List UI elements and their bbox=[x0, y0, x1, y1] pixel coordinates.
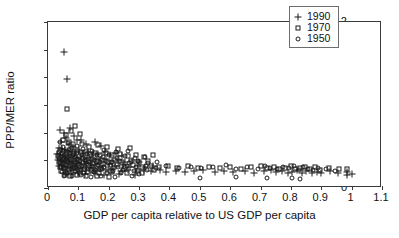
x-tick-mark bbox=[321, 186, 322, 190]
data-point-1950 bbox=[267, 165, 272, 170]
data-point-1970 bbox=[337, 167, 342, 172]
x-tick-label: 0.5 bbox=[191, 191, 206, 203]
x-tick-mark bbox=[169, 186, 170, 190]
circle-marker-icon bbox=[294, 34, 303, 43]
data-point-1950 bbox=[107, 153, 112, 158]
data-point-1950 bbox=[86, 166, 91, 171]
data-point-1950 bbox=[275, 167, 280, 172]
x-tick-mark bbox=[200, 186, 201, 190]
legend: 199019701950 bbox=[289, 6, 339, 48]
x-tick-mark bbox=[261, 186, 262, 190]
data-point-1970 bbox=[73, 123, 78, 128]
x-tick-mark bbox=[382, 186, 383, 190]
square-marker-icon bbox=[294, 23, 303, 32]
data-point-1950 bbox=[79, 173, 84, 178]
data-point-1950 bbox=[114, 149, 119, 154]
data-point-1950 bbox=[154, 159, 159, 164]
data-point-1950 bbox=[316, 165, 321, 170]
x-tick-label: 0.9 bbox=[313, 191, 328, 203]
data-point-1950 bbox=[74, 143, 79, 148]
x-tick-label: 0.1 bbox=[70, 191, 85, 203]
data-point-1970 bbox=[217, 166, 222, 171]
data-point-1950 bbox=[199, 166, 204, 171]
data-point-1950 bbox=[197, 176, 202, 181]
data-point-1950 bbox=[129, 173, 134, 178]
x-tick-label: 0.8 bbox=[282, 191, 297, 203]
x-tick-mark bbox=[352, 186, 353, 190]
data-point-1970 bbox=[96, 143, 101, 148]
data-point-1950 bbox=[58, 139, 63, 144]
x-tick-label: 0.2 bbox=[100, 191, 115, 203]
data-point-1950 bbox=[135, 159, 140, 164]
data-point-1950 bbox=[153, 165, 158, 170]
x-tick-label: 0.4 bbox=[161, 191, 176, 203]
x-tick-mark bbox=[78, 186, 79, 190]
data-point-1970 bbox=[345, 166, 350, 171]
legend-label: 1950 bbox=[307, 32, 330, 44]
data-point-1950 bbox=[102, 147, 107, 152]
data-point-1950 bbox=[123, 154, 128, 159]
data-point-1950 bbox=[332, 168, 337, 173]
data-point-1970 bbox=[68, 129, 73, 134]
x-tick-label: 0 bbox=[44, 191, 50, 203]
x-tick-mark bbox=[48, 186, 49, 190]
data-point-1950 bbox=[144, 168, 149, 173]
data-point-1950 bbox=[290, 175, 295, 180]
data-point-1950 bbox=[66, 141, 71, 146]
data-point-1950 bbox=[310, 168, 315, 173]
data-point-1950 bbox=[105, 171, 110, 176]
x-axis-title: GDP per capita relative to US GDP per ca… bbox=[0, 209, 399, 221]
data-point-1950 bbox=[281, 164, 286, 169]
y-axis-title: PPP/MER ratio bbox=[4, 55, 16, 165]
data-point-1950 bbox=[176, 165, 181, 170]
data-point-1970 bbox=[150, 153, 155, 158]
data-point-1970 bbox=[77, 132, 82, 137]
legend-item-1950: 1950 bbox=[294, 33, 334, 43]
data-point-1950 bbox=[234, 175, 239, 180]
data-point-1950 bbox=[142, 154, 147, 159]
x-tick-label: 1 bbox=[348, 191, 354, 203]
data-point-1950 bbox=[137, 171, 142, 176]
data-point-1950 bbox=[70, 174, 75, 179]
data-point-1970 bbox=[238, 166, 243, 171]
data-point-1950 bbox=[111, 168, 116, 173]
data-point-1950 bbox=[323, 167, 328, 172]
data-point-1990 bbox=[64, 75, 71, 82]
data-point-1950 bbox=[88, 174, 93, 179]
data-point-1950 bbox=[223, 163, 228, 168]
data-point-1970 bbox=[228, 164, 233, 169]
data-point-1950 bbox=[264, 176, 269, 181]
data-point-1950 bbox=[103, 158, 108, 163]
data-point-1970 bbox=[64, 107, 69, 112]
data-point-1950 bbox=[112, 174, 117, 179]
plus-marker-icon bbox=[294, 12, 303, 21]
data-point-1950 bbox=[99, 173, 104, 178]
x-tick-label: 1.1 bbox=[373, 191, 388, 203]
data-point-1990 bbox=[163, 168, 170, 175]
data-point-1950 bbox=[255, 166, 260, 171]
data-point-1950 bbox=[61, 173, 66, 178]
y-tick-mark bbox=[44, 188, 48, 189]
scatter-chart: PPP/MER ratio 024681012 00.10.20.30.40.5… bbox=[0, 0, 399, 238]
data-point-1950 bbox=[94, 152, 99, 157]
data-point-1950 bbox=[118, 159, 123, 164]
data-point-1950 bbox=[298, 176, 303, 181]
data-point-1950 bbox=[234, 166, 239, 171]
x-tick-mark bbox=[139, 186, 140, 190]
data-point-1950 bbox=[164, 164, 169, 169]
x-tick-mark bbox=[109, 186, 110, 190]
legend-item-1970: 1970 bbox=[294, 22, 334, 32]
x-tick-mark bbox=[291, 186, 292, 190]
data-point-1990 bbox=[181, 169, 188, 176]
x-tick-mark bbox=[230, 186, 231, 190]
data-point-1970 bbox=[249, 165, 254, 170]
data-point-1990 bbox=[61, 49, 68, 56]
data-point-1950 bbox=[108, 163, 113, 168]
x-tick-label: 0.6 bbox=[222, 191, 237, 203]
data-point-1950 bbox=[119, 170, 124, 175]
x-tick-label: 0.3 bbox=[130, 191, 145, 203]
legend-item-1990: 1990 bbox=[294, 11, 334, 21]
data-point-1950 bbox=[244, 165, 249, 170]
data-point-1990 bbox=[348, 171, 355, 178]
x-tick-label: 0.7 bbox=[252, 191, 267, 203]
